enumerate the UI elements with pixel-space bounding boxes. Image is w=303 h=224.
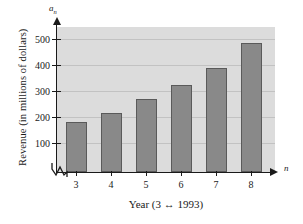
x-tick-5 [146,171,147,176]
bar-6 [171,85,192,172]
bar-4 [101,113,122,172]
x-axis-line [56,172,271,173]
y-tick-label-100: 100 [16,139,50,149]
y-axis-arrow-icon [53,17,61,25]
x-axis-variable-label: n [284,164,289,173]
x-tick-label-8: 8 [239,180,263,190]
x-tick-label-7: 7 [204,180,228,190]
y-axis-variable-subscript: n [54,8,57,15]
bar-5 [136,99,157,172]
y-tick-label-500: 500 [16,35,50,45]
y-tick-500 [52,39,61,40]
y-axis-line [56,24,57,172]
x-tick-label-6: 6 [169,180,193,190]
bar-7 [206,68,227,172]
x-axis-title: Year (3 ↔ 1993) [57,199,275,210]
x-tick-label-5: 5 [134,180,158,190]
axis-break-icon [50,163,70,177]
gridline-500 [57,39,275,40]
y-tick-400 [52,65,61,66]
x-tick-6 [181,171,182,176]
y-tick-200 [52,117,61,118]
revenue-bar-chart: Revenue (in millions of dollars) an n 10… [0,0,303,224]
y-tick-label-300: 300 [16,87,50,97]
x-tick-4 [111,171,112,176]
x-tick-8 [251,171,252,176]
x-tick-7 [216,171,217,176]
x-tick-label-4: 4 [99,180,123,190]
y-tick-label-200: 200 [16,113,50,123]
x-tick-label-3: 3 [64,180,88,190]
y-tick-label-400: 400 [16,61,50,71]
y-tick-300 [52,91,61,92]
x-axis-arrow-icon [270,168,278,176]
bar-8 [241,43,262,172]
y-tick-100 [52,143,61,144]
x-tick-3 [76,171,77,176]
y-axis-variable-label: an [49,4,57,15]
